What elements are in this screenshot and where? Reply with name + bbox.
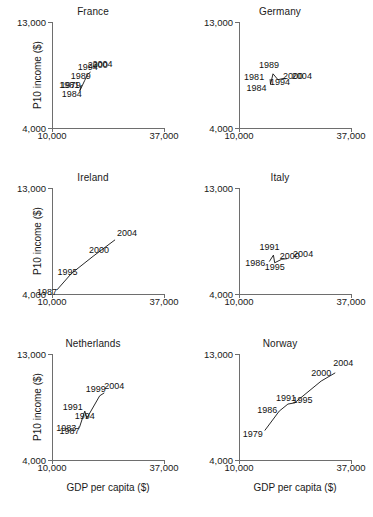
data-point-label: 1995 <box>265 263 285 272</box>
series-line <box>52 22 164 128</box>
plot-area: 4,00013,00010,00037,00019841979198119891… <box>52 22 164 128</box>
data-point-label: 2004 <box>117 229 137 238</box>
data-point-label: 1987 <box>37 288 57 297</box>
x-tick-label: 37,000 <box>336 130 365 141</box>
data-point-label: 1986 <box>245 259 265 268</box>
data-point-label: 1984 <box>247 84 267 93</box>
x-axis-line <box>239 128 351 129</box>
panel-title: Ireland <box>0 172 186 183</box>
series-line <box>239 188 351 294</box>
panel-title: Norway <box>187 338 373 349</box>
data-point-label: 1979 <box>243 430 263 439</box>
panel-ireland: IrelandP10 income ($)4,00013,00010,00037… <box>0 170 186 342</box>
y-axis-title: P10 income ($) <box>32 207 43 275</box>
data-point-label: 1995 <box>57 268 77 277</box>
data-point-label: 1981 <box>244 73 264 82</box>
x-tick-label: 10,000 <box>37 296 66 307</box>
x-axis-line <box>52 294 164 295</box>
y-tick-label: 13,000 <box>204 349 233 360</box>
panel-france: FranceP10 income ($)4,00013,00010,00037,… <box>0 4 186 176</box>
y-axis-title-wrap: P10 income ($) <box>6 188 20 294</box>
x-tick-label: 10,000 <box>224 296 253 307</box>
x-tick-label: 10,000 <box>224 462 253 473</box>
panel-norway: NorwayGDP per capita ($)4,00013,00010,00… <box>187 336 373 508</box>
data-point-label: 2004 <box>292 72 312 81</box>
y-axis-title: P10 income ($) <box>32 41 43 109</box>
x-axis-line <box>239 294 351 295</box>
data-point-label: 1995 <box>293 396 313 405</box>
x-tick-label: 10,000 <box>37 462 66 473</box>
x-tick-label: 37,000 <box>336 462 365 473</box>
scatter-plot-matrix: FranceP10 income ($)4,00013,00010,00037,… <box>0 0 373 517</box>
data-point-label: 2000 <box>89 246 109 255</box>
data-point-label: 2000 <box>311 369 331 378</box>
data-point-label: 1987 <box>59 427 79 436</box>
x-tick-label: 37,000 <box>149 130 178 141</box>
data-point-label: 1986 <box>257 406 277 415</box>
panel-netherlands: NetherlandsP10 income ($)GDP per capita … <box>0 336 186 508</box>
data-point-label: 1999 <box>86 385 106 394</box>
plot-area: 4,00013,00010,00037,0001987199520002004 <box>52 188 164 294</box>
plot-area: 4,00013,00010,00037,00019791986199119952… <box>239 354 351 460</box>
series-line <box>52 188 164 294</box>
x-axis-title: GDP per capita ($) <box>52 482 164 493</box>
x-tick-label: 37,000 <box>149 462 178 473</box>
panel-italy: Italy4,00013,00010,00037,000198619951991… <box>187 170 373 342</box>
plot-area: 4,00013,00010,00037,00019861995199120002… <box>239 188 351 294</box>
x-axis-line <box>52 460 164 461</box>
data-point-label: 2004 <box>293 250 313 259</box>
data-point-label: 1991 <box>259 243 279 252</box>
x-tick-label: 37,000 <box>149 296 178 307</box>
y-tick-label: 13,000 <box>17 183 46 194</box>
data-point-label: 1989 <box>259 61 279 70</box>
data-point-label: 1994 <box>75 412 95 421</box>
y-axis-title-wrap: P10 income ($) <box>6 22 20 128</box>
x-axis-title: GDP per capita ($) <box>239 482 351 493</box>
y-axis-title-wrap: P10 income ($) <box>6 354 20 460</box>
panel-title: France <box>0 6 186 17</box>
x-tick-label: 10,000 <box>224 130 253 141</box>
data-point-label: 2004 <box>93 60 113 69</box>
plot-area: 4,00013,00010,00037,00019831987199419911… <box>52 354 164 460</box>
data-point-label: 1981 <box>59 81 79 90</box>
panel-title: Netherlands <box>0 338 186 349</box>
panel-title: Germany <box>187 6 373 17</box>
x-axis-line <box>239 460 351 461</box>
data-point-label: 1989 <box>71 72 91 81</box>
data-point-label: 2004 <box>104 382 124 391</box>
y-axis-title: P10 income ($) <box>32 373 43 441</box>
x-axis-line <box>52 128 164 129</box>
x-tick-label: 37,000 <box>336 296 365 307</box>
y-tick-label: 13,000 <box>204 17 233 28</box>
panel-title: Italy <box>187 172 373 183</box>
plot-area: 4,00013,00010,00037,00019841981198919942… <box>239 22 351 128</box>
data-point-label: 1991 <box>63 403 83 412</box>
y-tick-label: 13,000 <box>204 183 233 194</box>
series-line <box>239 354 351 460</box>
panel-germany: Germany4,00013,00010,00037,0001984198119… <box>187 4 373 176</box>
data-point-label: 1984 <box>62 90 82 99</box>
y-tick-label: 13,000 <box>17 349 46 360</box>
y-tick-label: 13,000 <box>17 17 46 28</box>
x-tick-label: 10,000 <box>37 130 66 141</box>
data-point-label: 2004 <box>333 359 353 368</box>
